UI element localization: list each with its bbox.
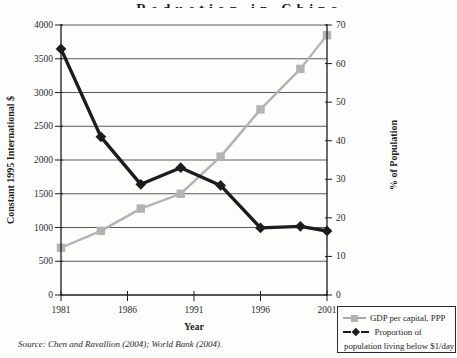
right-axis-tick-label: 60 xyxy=(336,59,346,69)
gdp-square-marker-icon xyxy=(343,315,366,322)
source-note: Source: Chen and Ravallion (2004); World… xyxy=(18,339,222,349)
left-axis-tick-label: 4000 xyxy=(34,20,53,30)
gdp-square-marker xyxy=(137,204,145,212)
left-axis-tick-label: 2000 xyxy=(34,155,53,165)
right-axis-tick-label: 0 xyxy=(336,290,341,300)
gdp-square-marker xyxy=(256,105,264,113)
legend-label-gdp: GDP per capital, PPP xyxy=(370,313,445,323)
poverty-diamond-marker xyxy=(295,221,306,232)
right-axis-tick-label: 20 xyxy=(336,213,346,223)
poverty-diamond-marker-icon xyxy=(343,329,371,335)
right-axis-tick-label: 10 xyxy=(336,251,346,261)
gdp-square-marker xyxy=(97,227,105,235)
chart-figure: Reduction in China 400035003000250020001… xyxy=(0,0,457,358)
gdp-square-marker xyxy=(296,65,304,73)
chart-canvas: 4000350030002500200015001000500070605040… xyxy=(0,0,457,358)
left-axis-tick-label: 3000 xyxy=(34,88,53,98)
legend-label-poverty-line1: Proportion of xyxy=(375,327,422,337)
left-y-axis-title: Constant 1995 International $ xyxy=(5,96,16,224)
tick-label-layer: 4000350030002500200015001000500070605040… xyxy=(34,20,346,315)
left-axis-tick-label: 3500 xyxy=(34,54,53,64)
left-axis-tick-label: 2500 xyxy=(34,121,53,131)
x-axis-tick-label: 2001 xyxy=(318,305,337,315)
x-axis-title: Year xyxy=(184,321,205,332)
legend-item-gdp: GDP per capital, PPP xyxy=(343,311,452,325)
axis-layer xyxy=(55,24,332,301)
left-axis-tick-label: 500 xyxy=(39,256,54,266)
right-axis-tick-label: 40 xyxy=(336,136,346,146)
legend-item-poverty-continued: population living below $1/day xyxy=(343,339,452,353)
left-axis-tick-label: 1000 xyxy=(34,223,53,233)
poverty-diamond-marker xyxy=(175,162,186,173)
x-axis-tick-label: 1981 xyxy=(52,305,71,315)
x-axis-tick-label: 1991 xyxy=(185,305,204,315)
x-axis-tick-label: 1986 xyxy=(118,305,137,315)
left-axis-tick-label: 0 xyxy=(48,290,53,300)
right-axis-tick-label: 50 xyxy=(336,97,346,107)
right-axis-tick-label: 70 xyxy=(336,20,346,30)
right-y-axis-title: % of Population xyxy=(388,120,399,190)
x-axis-tick-label: 1996 xyxy=(251,305,270,315)
legend-item-poverty: Proportion of xyxy=(343,325,452,339)
left-axis-tick-label: 1500 xyxy=(34,189,53,199)
series-layer xyxy=(56,31,333,252)
legend-box: GDP per capital, PPP Proportion of popul… xyxy=(337,306,456,353)
right-axis-tick-label: 30 xyxy=(336,174,346,184)
legend-label-poverty-line2: population living below $1/day xyxy=(344,341,454,351)
gdp-square-marker xyxy=(177,190,185,198)
gdp-square-marker xyxy=(216,152,224,160)
